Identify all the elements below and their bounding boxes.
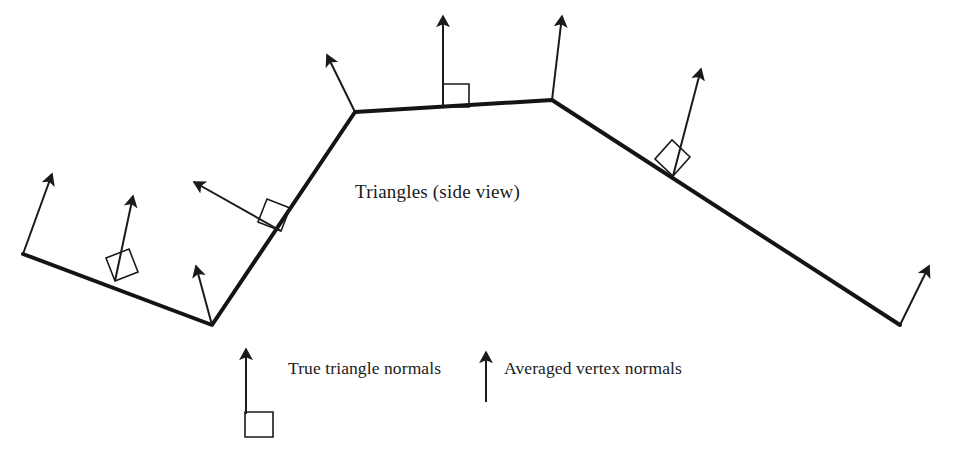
vertex-normal-3 <box>552 16 562 100</box>
vertex-normal-1 <box>196 266 212 325</box>
surface-polyline <box>23 100 900 325</box>
vertex-normal-0 <box>23 174 52 254</box>
legend-label-averaged-vertex-normals: Averaged vertex normals <box>504 360 682 378</box>
face-normal-1 <box>194 182 290 231</box>
legend-label-true-triangle-normals: True triangle normals <box>288 360 441 378</box>
face-normal-3 <box>655 69 701 176</box>
normals-diagram-canvas <box>0 0 958 470</box>
right-angle-marker-0 <box>106 249 138 281</box>
face-normal-0 <box>106 196 138 281</box>
vertex-normals-group <box>23 16 929 325</box>
triangle-strip-surface <box>23 100 900 325</box>
face-normal-2 <box>443 16 469 107</box>
vertex-normal-4 <box>900 266 929 325</box>
face-normal-arrow-1 <box>194 182 281 231</box>
vertex-normal-2 <box>327 55 355 112</box>
figure-root: Triangles (side view) True triangle norm… <box>0 0 958 470</box>
legend-right-angle-marker <box>245 412 273 437</box>
legend-face-normal-sample <box>245 349 273 437</box>
face-normals-group <box>106 16 701 281</box>
surface-caption: Triangles (side view) <box>355 182 520 201</box>
face-normal-arrow-0 <box>115 196 133 281</box>
